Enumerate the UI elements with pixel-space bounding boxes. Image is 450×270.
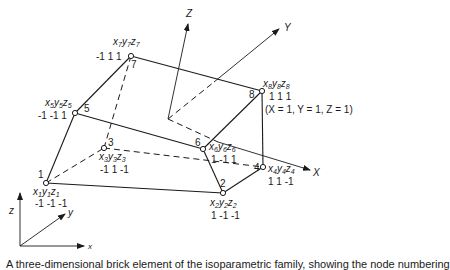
coordinate-labels: x1y1z1 -1 -1 -1 x2y2z2 1 -1 -1 x3y3z3 -1…: [32, 36, 353, 221]
node-6: [200, 146, 205, 151]
node-4: [260, 164, 265, 169]
z-axis-label: Z: [185, 8, 193, 19]
node-4-coord: x4y4z4: [267, 163, 295, 175]
y-axis-line: [214, 29, 279, 82]
node-7: [128, 53, 133, 58]
node-7-number: 7: [131, 59, 137, 70]
node-4-number: 4: [254, 162, 260, 173]
node-5-number: 5: [84, 103, 90, 114]
node-2: [220, 190, 225, 195]
node-8-coord: x8y8z8: [262, 78, 290, 90]
ref-y-axis: [20, 214, 65, 246]
node-1-number: 1: [38, 169, 44, 180]
node-2-values: 1 -1 -1: [211, 210, 240, 221]
node-3-number: 3: [108, 137, 114, 148]
edge-5-6: [75, 113, 203, 149]
ref-z-label: z: [8, 205, 14, 216]
node-3: [101, 145, 106, 150]
node-1-coord: x1y1z1: [32, 186, 60, 198]
node-1: [43, 180, 48, 185]
node-8-number: 8: [249, 89, 255, 100]
x-axis-label: X: [312, 167, 320, 178]
figure-caption: A three-dimensional brick element of the…: [6, 258, 450, 270]
visible-edges: [46, 56, 263, 193]
node-3-values: -1 1 -1: [100, 164, 129, 175]
nodes: [43, 53, 265, 195]
node-5-coord: x5y5z5: [44, 97, 72, 109]
node-numbers: 1 2 3 4 5 6 7 8: [38, 59, 260, 189]
y-axis-label: Y: [284, 22, 292, 33]
node-6-coord: x6y6z6: [208, 141, 236, 153]
node-5: [72, 110, 77, 115]
corner-note: (X = 1, Y = 1, Z = 1): [265, 104, 353, 115]
node-7-coord: x7y7z7: [112, 36, 141, 48]
node-2-coord: x2y2z2: [209, 197, 237, 209]
x-axis-hidden: [168, 119, 218, 142]
node-8: [259, 88, 264, 93]
edge-1-3: [46, 148, 104, 183]
global-axes: Z Y X: [168, 8, 320, 178]
node-6-values: 1 -1 1: [211, 154, 237, 165]
ref-y-label: y: [67, 207, 74, 218]
edge-1-5: [46, 113, 75, 183]
node-3-coord: x3y3z3: [98, 151, 126, 163]
node-7-values: -1 1 1: [96, 51, 122, 62]
node-5-values: -1 -1 1: [38, 110, 67, 121]
edge-1-2: [46, 183, 223, 193]
node-8-values: 1 1 1: [269, 91, 292, 102]
ref-x-label: x: [87, 242, 93, 251]
node-1-values: -1 -1 -1: [35, 198, 68, 209]
edge-7-8: [131, 56, 262, 91]
node-2-number: 2: [220, 178, 226, 189]
node-4-values: 1 1 -1: [268, 176, 294, 187]
node-6-number: 6: [195, 137, 201, 148]
